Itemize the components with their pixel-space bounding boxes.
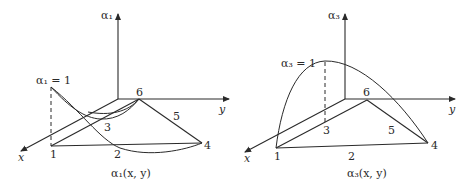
alpha3-axis-label: α₃ <box>328 9 340 22</box>
node-2-label: 2 <box>348 150 355 163</box>
bubble-curve <box>276 61 428 148</box>
x-axis-label: x <box>18 151 25 164</box>
curve-1-to-6 <box>51 87 139 119</box>
x-axis-label: x <box>244 152 251 165</box>
alpha1-axis-label: α₁ <box>101 9 113 22</box>
node-3-label: 3 <box>323 124 330 137</box>
x-axis <box>245 99 345 152</box>
edge-4-6 <box>139 99 202 143</box>
y-axis-label: y <box>448 103 456 116</box>
alpha3-peak-label: α₃ = 1 <box>281 57 316 70</box>
node-4-label: 4 <box>431 139 438 152</box>
edge-4-6 <box>367 100 428 143</box>
edge-1-6 <box>276 100 367 148</box>
shape-function-figure: α₁ α₁ = 1 x y 1 2 3 4 5 6 α₁(x, y) α₃ α₃… <box>0 0 472 189</box>
node-4-label: 4 <box>204 139 211 152</box>
right-panel-alpha3: α₃ α₃ = 1 x y 1 2 3 4 5 6 α₃(x, y) <box>244 9 456 180</box>
right-caption: α₃(x, y) <box>347 167 387 180</box>
node-6-label: 6 <box>136 86 143 99</box>
node-5-label: 5 <box>388 124 395 137</box>
node-5-label: 5 <box>173 110 180 123</box>
y-axis-label: y <box>218 103 226 116</box>
node-3-label: 3 <box>104 121 111 134</box>
left-caption: α₁(x, y) <box>111 167 151 180</box>
node-2-label: 2 <box>114 148 121 161</box>
edge-1-4 <box>51 143 202 146</box>
node-6-label: 6 <box>363 86 370 99</box>
edge-1-4 <box>276 143 428 148</box>
node-1-label: 1 <box>50 148 57 161</box>
edge-1-6 <box>51 99 139 146</box>
node-1-label: 1 <box>274 150 281 163</box>
alpha1-peak-label: α₁ = 1 <box>36 74 71 87</box>
left-panel-alpha1: α₁ α₁ = 1 x y 1 2 3 4 5 6 α₁(x, y) <box>18 9 229 180</box>
